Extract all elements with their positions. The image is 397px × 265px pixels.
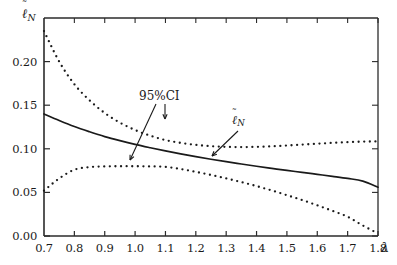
- series-dot-1: [81, 92, 83, 94]
- y-axis-title-tilde: ˜: [22, 0, 28, 11]
- series-dot-2: [332, 210, 334, 212]
- series-dot-1: [58, 60, 60, 62]
- series-dot-2: [220, 176, 222, 178]
- series-dot-1: [240, 146, 242, 148]
- series-dot-1: [307, 143, 309, 145]
- series-dot-2: [306, 201, 308, 203]
- series-dot-2: [192, 170, 194, 172]
- series-dot-1: [162, 138, 164, 140]
- series-dot-2: [170, 166, 172, 168]
- series-dot-1: [234, 146, 236, 148]
- series-dot-1: [352, 141, 354, 143]
- axes-frame: [44, 18, 378, 236]
- series-dot-1: [262, 146, 264, 148]
- series-dot-2: [43, 190, 45, 192]
- series-line-0: [44, 114, 378, 187]
- series-dot-2: [148, 165, 150, 167]
- x-axis-title: λ: [381, 240, 389, 255]
- series-dot-2: [268, 189, 270, 191]
- series-dot-1: [290, 144, 292, 146]
- series-dot-1: [274, 145, 276, 147]
- y-axis-title-ell: ˜ℓ: [22, 6, 27, 22]
- series-dot-2: [362, 225, 364, 227]
- series-dot-1: [55, 55, 57, 57]
- series-dot-1: [97, 107, 99, 109]
- series-dot-2: [295, 197, 297, 199]
- series-dot-1: [53, 50, 55, 52]
- series-dot-2: [165, 166, 167, 168]
- series-dot-1: [89, 100, 91, 102]
- x-tick-label: 0.7: [35, 241, 53, 255]
- series-dot-2: [86, 166, 88, 168]
- series-dot-2: [65, 173, 67, 175]
- series-dot-2: [301, 199, 303, 201]
- series-dot-2: [372, 230, 374, 232]
- chart-figure: 0.70.80.91.01.11.21.31.41.51.61.71.8 0.0…: [0, 0, 397, 265]
- series-dot-1: [179, 142, 181, 144]
- series-dot-1: [201, 144, 203, 146]
- series-dot-2: [337, 212, 339, 214]
- series-dot-2: [367, 227, 369, 229]
- series-dot-1: [369, 140, 371, 142]
- series-dot-1: [125, 125, 127, 127]
- series-dot-2: [70, 170, 72, 172]
- series-dot-1: [130, 127, 132, 129]
- series-dot-1: [102, 110, 104, 112]
- series-dot-2: [252, 184, 254, 186]
- series-dot-1: [251, 146, 253, 148]
- series-dot-1: [116, 120, 118, 122]
- series-dot-1: [157, 137, 159, 139]
- series-dot-2: [187, 169, 189, 171]
- series-dot-1: [173, 141, 175, 143]
- series-dot-2: [142, 165, 144, 167]
- series-dot-1: [346, 141, 348, 143]
- x-tick-label: 1.2: [187, 241, 205, 255]
- series-dot-2: [47, 186, 49, 188]
- series-dot-2: [279, 192, 281, 194]
- series-dot-2: [263, 187, 265, 189]
- y-tick-label: 0.15: [0, 98, 37, 112]
- series-dot-1: [43, 30, 45, 32]
- series-dot-2: [114, 165, 116, 167]
- plot-canvas: [0, 0, 397, 265]
- series-dot-1: [168, 140, 170, 142]
- series-dot-2: [209, 174, 211, 176]
- series-dot-1: [146, 134, 148, 136]
- series-dot-1: [106, 114, 108, 116]
- series-dot-1: [268, 145, 270, 147]
- series-dot-2: [214, 175, 216, 177]
- y-tick-label: 0.05: [0, 185, 37, 199]
- x-tick-marks: [74, 18, 378, 236]
- series-dot-1: [195, 144, 197, 146]
- series-dot-2: [109, 165, 111, 167]
- series-dot-2: [236, 180, 238, 182]
- series-dot-2: [290, 195, 292, 197]
- annotation-leader-lines: [130, 104, 238, 160]
- series-dot-1: [363, 140, 365, 142]
- series-dot-2: [198, 171, 200, 173]
- series-dot-2: [181, 168, 183, 170]
- series-dot-1: [50, 45, 52, 47]
- series-dot-1: [257, 146, 259, 148]
- series-dot-2: [56, 179, 58, 181]
- series-dot-2: [231, 179, 233, 181]
- series-dot-1: [93, 103, 95, 105]
- series-dot-1: [285, 144, 287, 146]
- x-tick-label: 1.3: [217, 241, 235, 255]
- series-dot-2: [75, 168, 77, 170]
- series-dot-2: [348, 216, 350, 218]
- series-dot-1: [374, 140, 376, 142]
- x-tick-label: 1.4: [248, 241, 266, 255]
- series-dot-1: [318, 142, 320, 144]
- y-axis-title: ˜ℓN: [22, 6, 36, 23]
- x-tick-label: 0.9: [96, 241, 114, 255]
- series-dot-2: [92, 166, 94, 168]
- series-dot-1: [64, 70, 66, 72]
- y-tick-label: 0.00: [0, 229, 37, 243]
- series-dot-2: [353, 219, 355, 221]
- series-dot-1: [357, 141, 359, 143]
- series-dot-1: [246, 146, 248, 148]
- series-dot-2: [285, 194, 287, 196]
- y-tick-label: 0.10: [0, 142, 37, 156]
- series-dot-1: [223, 146, 225, 148]
